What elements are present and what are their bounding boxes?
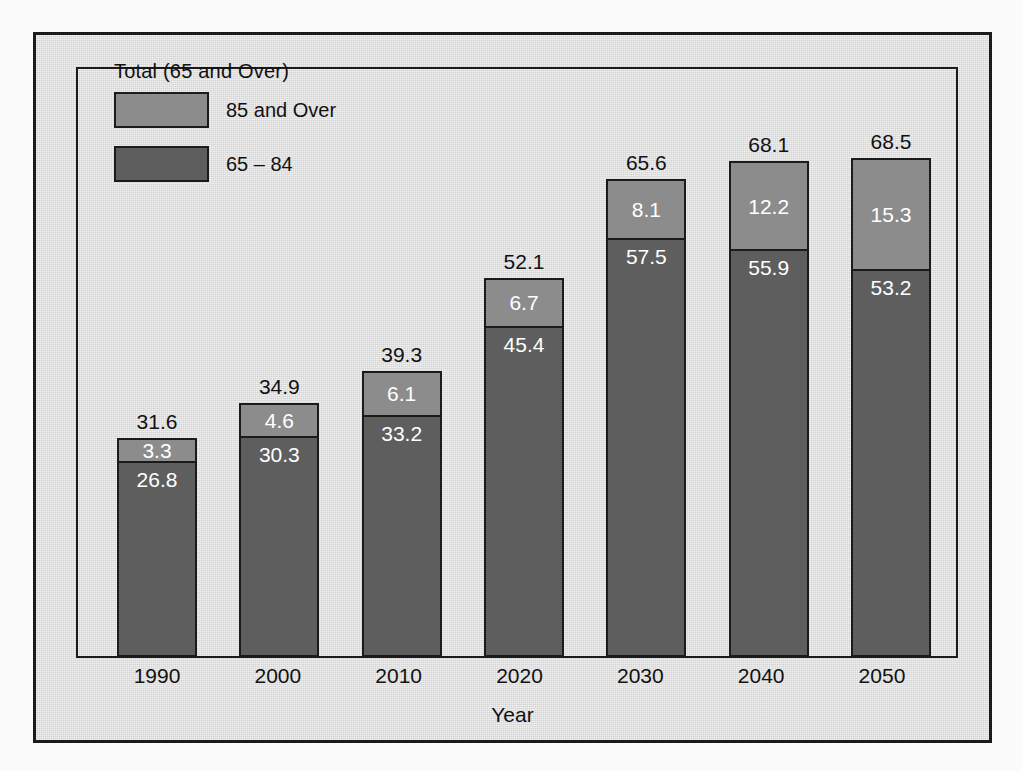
- legend-swatch-85-and-over: [114, 92, 209, 128]
- bar-segment-value-85-over-2040: 12.2: [748, 196, 789, 217]
- bar-stack-2010[interactable]: 6.1 33.2: [362, 371, 442, 657]
- scan-canvas: Total (65 and Over) 85 and Over 65 – 84 …: [0, 0, 1022, 771]
- x-tick-2000: 2000: [238, 664, 318, 688]
- bar-segment-65-84-2040[interactable]: 55.9: [731, 251, 807, 655]
- bar-segment-85-over-2040[interactable]: 12.2: [731, 163, 807, 251]
- bar-segment-value-85-over-2010: 6.1: [387, 383, 416, 404]
- bar-segment-65-84-1990[interactable]: 26.8: [119, 463, 195, 655]
- bar-segment-85-over-2020[interactable]: 6.7: [486, 280, 562, 328]
- bar-segment-value-85-over-1990: 3.3: [142, 440, 171, 461]
- x-tick-2040: 2040: [721, 664, 801, 688]
- bar-segment-value-65-84-1990: 26.8: [137, 463, 178, 490]
- bar-segment-value-85-over-2030: 8.1: [632, 199, 661, 220]
- bar-segment-65-84-2020[interactable]: 45.4: [486, 328, 562, 655]
- bar-segment-value-65-84-2050: 53.2: [871, 271, 912, 298]
- bar-segment-85-over-2000[interactable]: 4.6: [241, 405, 317, 438]
- x-tick-2050: 2050: [842, 664, 922, 688]
- bar-stack-2030[interactable]: 8.1 57.5: [606, 179, 686, 657]
- bar-segment-value-65-84-2010: 33.2: [381, 417, 422, 444]
- bar-segment-value-65-84-2000: 30.3: [259, 438, 300, 465]
- bar-segment-85-over-1990[interactable]: 3.3: [119, 440, 195, 464]
- bar-segment-value-65-84-2040: 55.9: [748, 251, 789, 278]
- legend-item-85-and-over: 85 and Over: [114, 92, 336, 128]
- bar-total-label-2000: 34.9: [219, 375, 339, 399]
- bar-total-label-2040: 68.1: [709, 133, 829, 157]
- bar-segment-65-84-2050[interactable]: 53.2: [853, 271, 929, 655]
- legend-item-65-84: 65 – 84: [114, 146, 336, 182]
- bar-stack-1990[interactable]: 3.3 26.8: [117, 438, 197, 657]
- x-tick-2010: 2010: [359, 664, 439, 688]
- legend-title: Total (65 and Over): [114, 60, 336, 83]
- x-axis-tick-labels: 1990 2000 2010 2020 2030 2040 2050: [117, 664, 922, 688]
- bar-segment-85-over-2010[interactable]: 6.1: [364, 373, 440, 417]
- bar-group-2030: 65.6 8.1 57.5: [606, 68, 686, 657]
- x-tick-2030: 2030: [600, 664, 680, 688]
- bar-stack-2050[interactable]: 15.3 53.2: [851, 158, 931, 657]
- chart-legend: Total (65 and Over) 85 and Over 65 – 84: [114, 60, 336, 200]
- bar-segment-85-over-2030[interactable]: 8.1: [608, 181, 684, 239]
- bar-stack-2000[interactable]: 4.6 30.3: [239, 403, 319, 657]
- bar-segment-85-over-2050[interactable]: 15.3: [853, 160, 929, 271]
- bar-segment-value-65-84-2020: 45.4: [504, 328, 545, 355]
- legend-label-65-84: 65 – 84: [226, 153, 293, 176]
- legend-swatch-65-84: [114, 146, 209, 182]
- bar-group-2010: 39.3 6.1 33.2: [362, 68, 442, 657]
- x-tick-2020: 2020: [479, 664, 559, 688]
- bar-segment-value-65-84-2030: 57.5: [626, 240, 667, 267]
- bar-segment-value-85-over-2020: 6.7: [509, 292, 538, 313]
- x-tick-1990: 1990: [117, 664, 197, 688]
- bar-segment-65-84-2000[interactable]: 30.3: [241, 438, 317, 655]
- bar-total-label-2030: 65.6: [586, 151, 706, 175]
- x-axis-title: Year: [36, 703, 989, 727]
- bar-segment-value-85-over-2050: 15.3: [871, 204, 912, 225]
- bar-stack-2040[interactable]: 12.2 55.9: [729, 161, 809, 657]
- figure-outer-frame: Total (65 and Over) 85 and Over 65 – 84 …: [33, 32, 992, 743]
- bar-segment-65-84-2010[interactable]: 33.2: [364, 417, 440, 655]
- bar-total-label-2020: 52.1: [464, 250, 584, 274]
- bar-group-2040: 68.1 12.2 55.9: [729, 68, 809, 657]
- legend-label-85-and-over: 85 and Over: [226, 99, 336, 122]
- bar-group-2050: 68.5 15.3 53.2: [851, 68, 931, 657]
- bar-total-label-2010: 39.3: [342, 343, 462, 367]
- bar-segment-value-85-over-2000: 4.6: [265, 410, 294, 431]
- bar-group-2020: 52.1 6.7 45.4: [484, 68, 564, 657]
- bar-total-label-2050: 68.5: [831, 130, 951, 154]
- bar-total-label-1990: 31.6: [97, 410, 217, 434]
- bar-segment-65-84-2030[interactable]: 57.5: [608, 240, 684, 655]
- bar-stack-2020[interactable]: 6.7 45.4: [484, 278, 564, 657]
